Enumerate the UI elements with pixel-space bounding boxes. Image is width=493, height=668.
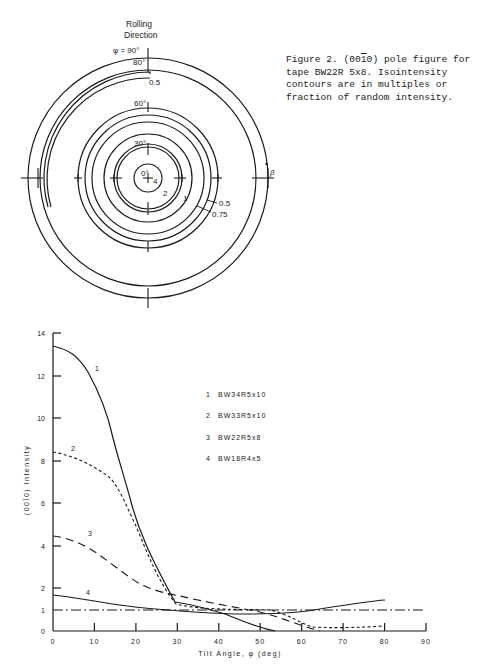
angle-label-0: 0° (141, 169, 149, 178)
angle-label-30: 30° (134, 139, 146, 148)
svg-text:60: 60 (297, 638, 307, 645)
rolling-direction-line2: Direction (124, 30, 158, 40)
angle-label-80: 80° (133, 58, 145, 67)
svg-text:BW33R5x10: BW33R5x10 (218, 412, 266, 419)
svg-text:1: 1 (206, 391, 211, 398)
legend: 1 BW34R5x10 2 BW33R5x10 3 BW22R5x8 4 BW1… (206, 391, 266, 462)
contour-label-4: 4 (153, 177, 158, 186)
svg-text:30: 30 (172, 638, 182, 645)
axes (53, 333, 426, 631)
legend-item-4: 4 BW18R4x5 (206, 455, 261, 462)
svg-text:10: 10 (37, 415, 45, 422)
leader-0.5 (207, 200, 217, 203)
svg-text:90: 90 (421, 638, 431, 645)
contour-label-2: 2 (163, 189, 168, 198)
svg-text:4: 4 (41, 543, 45, 550)
series-2-curve (53, 452, 384, 628)
svg-text:2: 2 (206, 412, 211, 419)
legend-item-1: 1 BW34R5x10 (206, 391, 266, 398)
svg-text:8: 8 (41, 458, 45, 465)
svg-text:12: 12 (37, 373, 45, 380)
y-tick-labels: 14 12 10 8 6 4 2 1 0 (37, 330, 45, 635)
svg-text:BW18R4x5: BW18R4x5 (218, 455, 261, 462)
contour-label-0.5: 0.5 (219, 199, 231, 208)
legend-item-3: 3 BW22R5x8 (206, 434, 261, 441)
svg-text:50: 50 (255, 638, 265, 645)
angle-label-60: 60° (134, 99, 146, 108)
svg-text:1: 1 (95, 365, 99, 372)
legend-item-2: 2 BW33R5x10 (206, 412, 266, 419)
beta-marker (266, 163, 267, 165)
y-axis-title: (00Ī0) Intensity (23, 445, 31, 515)
svg-text:6: 6 (41, 500, 45, 507)
curve-labels: 1 2 3 4 (71, 365, 99, 596)
svg-text:70: 70 (338, 638, 348, 645)
x-tick-labels: 0 10 20 30 40 50 60 70 80 90 (51, 638, 431, 645)
caption-prefix: Figure 2. (00 (286, 54, 361, 65)
series-3-curve (53, 536, 320, 631)
x-axis-title: Tilt Angle, φ (deg) (198, 650, 282, 658)
svg-text:3: 3 (88, 530, 92, 537)
contour-label-0.5-top: 0.5 (149, 78, 161, 87)
figure-2-caption: Figure 2. (0010) pole figure for tape BW… (286, 54, 491, 104)
contour-label-1: 1 (183, 194, 188, 203)
svg-text:1: 1 (41, 607, 45, 614)
angle-label-90: φ = 90° (113, 46, 139, 55)
svg-text:10: 10 (90, 638, 100, 645)
svg-text:4: 4 (206, 455, 211, 462)
contour-label-0.75: 0.75 (212, 210, 228, 219)
svg-text:3: 3 (206, 434, 211, 441)
svg-text:2: 2 (41, 585, 45, 592)
pole-figure (21, 48, 274, 308)
intensity-chart: 14 12 10 8 6 4 2 1 0 0 10 20 30 40 50 60… (23, 330, 431, 658)
beta-label: β (269, 168, 275, 177)
svg-text:80: 80 (380, 638, 390, 645)
svg-text:BW22R5x8: BW22R5x8 (218, 434, 261, 441)
svg-text:4: 4 (86, 589, 90, 596)
svg-text:BW34R5x10: BW34R5x10 (218, 391, 266, 398)
rolling-direction-line1: Rolling (126, 19, 152, 29)
crosshair-ticks (21, 48, 274, 308)
pole-figure-labels: Rolling Direction φ = 90° 80° 0.5 60° 30… (113, 19, 275, 219)
svg-text:2: 2 (71, 445, 75, 452)
svg-text:0: 0 (51, 638, 56, 645)
svg-text:20: 20 (131, 638, 141, 645)
svg-text:0: 0 (41, 628, 45, 635)
svg-text:14: 14 (37, 330, 45, 337)
svg-text:40: 40 (214, 638, 224, 645)
